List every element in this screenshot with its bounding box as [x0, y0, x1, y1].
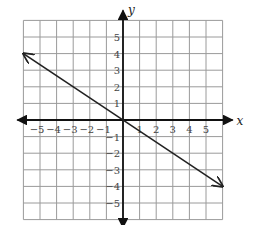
y-tick-label: −4 [105, 181, 120, 192]
y-tick-label: −1 [105, 132, 120, 143]
y-tick-label: 5 [114, 32, 120, 43]
y-tick-label: 2 [114, 82, 120, 93]
x-tick-label: −3 [63, 124, 78, 135]
x-tick-label: −2 [79, 124, 94, 135]
y-tick-label: 3 [114, 65, 120, 76]
y-tick-label: 1 [114, 98, 120, 109]
x-axis-label: x [237, 114, 244, 128]
x-tick-label: 3 [170, 124, 176, 135]
x-tick-label: 4 [186, 124, 192, 135]
y-tick-label: −2 [105, 148, 120, 159]
x-tick-label: −4 [46, 124, 61, 135]
y-axis-label: y [127, 3, 135, 17]
coordinate-plane: −5−4−3−2−11234554321−1−2−3−4−5xy [0, 0, 256, 225]
x-tick-label: 5 [203, 124, 209, 135]
x-tick-label: −5 [30, 124, 45, 135]
x-tick-label: 2 [153, 124, 159, 135]
y-tick-label: −3 [105, 165, 120, 176]
y-tick-label: −5 [105, 198, 120, 209]
y-tick-label: 4 [114, 49, 120, 60]
